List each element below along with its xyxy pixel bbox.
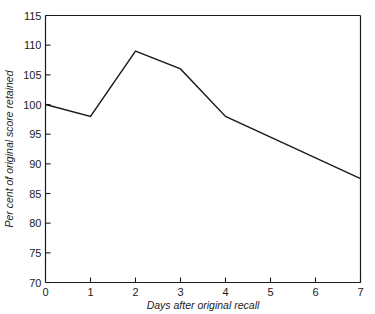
x-axis-title: Days after original recall: [147, 299, 260, 311]
y-tick-label: 95: [29, 128, 41, 140]
x-tick-label: 3: [177, 286, 183, 298]
line-chart: 707580859095100105110115 01234567 Days a…: [0, 0, 375, 314]
y-tick-label: 100: [23, 99, 41, 111]
x-tick-label: 7: [357, 286, 363, 298]
x-tick-label: 2: [132, 286, 138, 298]
y-tick-label: 115: [24, 10, 42, 22]
x-tick-label: 4: [222, 286, 228, 298]
x-tick-label: 0: [42, 286, 48, 298]
y-axis-title: Per cent of original score retained: [3, 69, 15, 227]
x-tick-label: 5: [267, 286, 273, 298]
y-tick-label: 85: [29, 188, 41, 200]
x-tick-label: 1: [87, 286, 93, 298]
y-tick-label: 110: [24, 39, 42, 51]
y-tick-label: 75: [29, 247, 41, 259]
y-tick-label: 70: [29, 277, 41, 289]
y-tick-label: 90: [29, 158, 41, 170]
y-tick-label: 105: [23, 69, 41, 81]
y-tick-label: 80: [29, 217, 41, 229]
chart-container: 707580859095100105110115 01234567 Days a…: [0, 0, 375, 314]
chart-background: [0, 0, 375, 314]
x-tick-label: 6: [312, 286, 318, 298]
